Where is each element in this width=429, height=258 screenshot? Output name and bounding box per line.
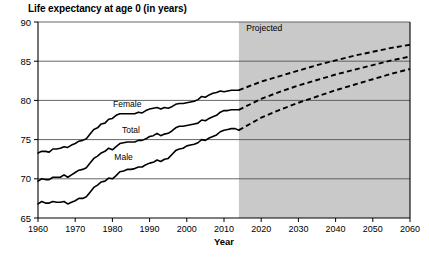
x-axis-title: Year: [214, 236, 234, 247]
chart-annotations: Projected: [246, 23, 282, 33]
projected-region-label: Projected: [246, 23, 282, 33]
x-tick-label: 2010: [214, 224, 234, 234]
y-tick-label: 75: [20, 134, 31, 145]
series-label-male: Male: [114, 152, 133, 162]
y-tick-label: 85: [20, 56, 31, 67]
projected-shaded-region: [239, 22, 410, 218]
x-tick-label: 2030: [288, 224, 308, 234]
x-tick-label: 1970: [65, 224, 85, 234]
x-tick-label: 1960: [28, 224, 48, 234]
y-tick-label: 70: [20, 173, 31, 184]
x-axis-tick-labels: 1960197019801990200020102020203020402050…: [28, 224, 420, 234]
life-expectancy-chart: Life expectancy at age 0 (in years) 6570…: [0, 0, 429, 258]
series-inline-labels: FemaleTotalMale: [113, 99, 142, 162]
y-tick-label: 90: [20, 17, 31, 28]
y-axis-tick-labels: 657075808590: [20, 17, 31, 224]
series-line-historical: [38, 110, 239, 181]
y-tick-label: 80: [20, 95, 31, 106]
series-label-female: Female: [113, 99, 142, 109]
x-tick-label: 1980: [102, 224, 122, 234]
x-tick-label: 2000: [177, 224, 197, 234]
x-tick-label: 2050: [363, 224, 383, 234]
x-tick-label: 2060: [400, 224, 420, 234]
x-tick-label: 1990: [140, 224, 160, 234]
y-tick-label: 65: [20, 213, 31, 224]
x-tick-label: 2040: [326, 224, 346, 234]
chart-plot-area: 657075808590 196019701980199020002010202…: [0, 0, 429, 258]
series-label-total: Total: [122, 125, 140, 135]
x-tick-label: 2020: [251, 224, 271, 234]
